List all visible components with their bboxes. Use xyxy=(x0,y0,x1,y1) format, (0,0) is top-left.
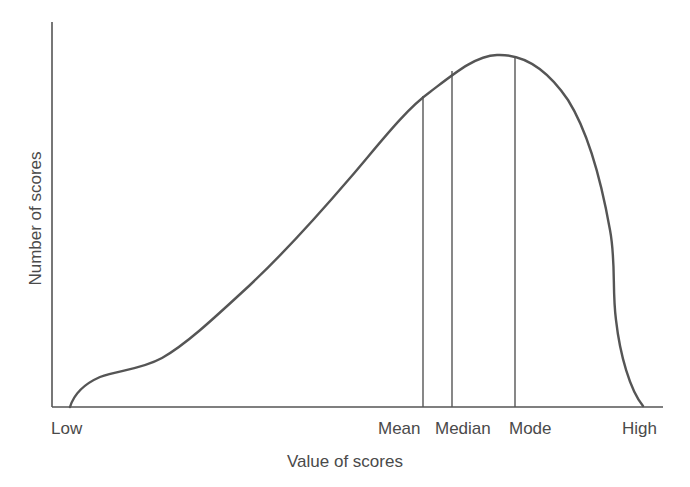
distribution-curve xyxy=(70,55,643,407)
x-tick-high: High xyxy=(622,420,657,437)
chart-canvas xyxy=(0,0,690,487)
y-axis-label: Number of scores xyxy=(27,139,44,299)
x-tick-mean: Mean xyxy=(378,420,421,437)
x-tick-low: Low xyxy=(51,420,82,437)
x-axis-label: Value of scores xyxy=(287,453,403,470)
x-tick-median: Median xyxy=(435,420,491,437)
x-tick-mode: Mode xyxy=(509,420,552,437)
